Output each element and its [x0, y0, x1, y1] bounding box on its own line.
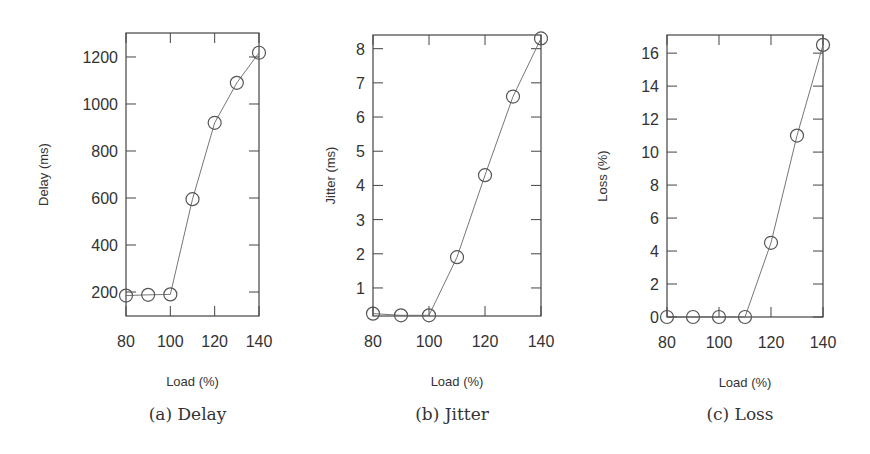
y-axis-label: Loss (%): [595, 150, 610, 201]
y-axis-label: Delay (ms): [36, 143, 51, 206]
y-tick-label: 1200: [82, 49, 118, 66]
x-axis-label: Load (%): [719, 375, 772, 390]
y-tick-label: 8: [356, 41, 365, 58]
y-tick-label: 7: [356, 75, 365, 92]
y-tick-label: 5: [356, 143, 365, 160]
x-tick-label: 120: [758, 334, 785, 351]
y-tick-label: 0: [650, 309, 659, 326]
x-tick-label: 140: [528, 333, 555, 350]
subfigure-caption: (b) Jitter: [415, 404, 490, 424]
y-tick-label: 2: [356, 246, 365, 263]
chart-delay: 8010012014020040060080010001200Load (%)D…: [36, 33, 272, 424]
x-tick-label: 80: [117, 333, 135, 350]
x-axis-label: Load (%): [166, 374, 219, 389]
data-line: [667, 45, 823, 317]
x-tick-label: 120: [472, 333, 499, 350]
y-tick-label: 12: [641, 111, 659, 128]
subfigure-caption: (a) Delay: [149, 404, 227, 424]
y-tick-label: 1000: [82, 96, 118, 113]
x-tick-label: 100: [706, 334, 733, 351]
y-tick-label: 800: [91, 143, 118, 160]
x-axis-label: Load (%): [431, 374, 484, 389]
data-line: [373, 38, 541, 315]
y-tick-label: 10: [641, 144, 659, 161]
y-axis-label: Jitter (ms): [323, 147, 338, 205]
x-tick-label: 120: [201, 333, 228, 350]
chart-canvas: 8010012014020040060080010001200Load (%)D…: [0, 0, 870, 454]
y-tick-label: 600: [91, 190, 118, 207]
x-tick-label: 80: [658, 334, 676, 351]
x-tick-label: 140: [810, 334, 837, 351]
y-tick-label: 16: [641, 45, 659, 62]
x-tick-label: 100: [416, 333, 443, 350]
y-tick-label: 3: [356, 212, 365, 229]
plot-frame: [373, 35, 541, 316]
plot-frame: [667, 35, 823, 317]
x-tick-label: 80: [364, 333, 382, 350]
y-tick-label: 14: [641, 78, 659, 95]
chart-loss: 801001201400246810121416Load (%)Loss (%)…: [595, 35, 836, 424]
y-tick-label: 2: [650, 276, 659, 293]
y-tick-label: 4: [650, 243, 659, 260]
x-tick-label: 100: [157, 333, 184, 350]
y-tick-label: 6: [356, 109, 365, 126]
plot-frame: [126, 33, 259, 316]
y-tick-label: 6: [650, 210, 659, 227]
subfigure-caption: (c) Loss: [706, 404, 773, 424]
y-tick-label: 200: [91, 284, 118, 301]
y-tick-label: 1: [356, 280, 365, 297]
y-tick-label: 8: [650, 177, 659, 194]
x-tick-label: 140: [246, 333, 273, 350]
y-tick-label: 4: [356, 177, 365, 194]
chart-jitter: 8010012014012345678Load (%)Jitter (ms)(b…: [323, 32, 554, 424]
y-tick-label: 400: [91, 237, 118, 254]
